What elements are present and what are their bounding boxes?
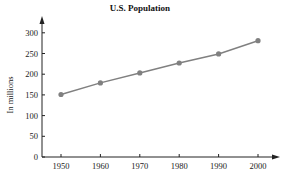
x-axis: 195019601970198019902000 bbox=[42, 154, 280, 171]
x-tick-label: 1980 bbox=[171, 161, 188, 171]
x-tick-label: 1950 bbox=[53, 161, 70, 171]
y-axis: 050100150200250300 bbox=[25, 16, 45, 162]
y-tick-label: 300 bbox=[25, 28, 38, 38]
x-tick-label: 1970 bbox=[131, 161, 148, 171]
data-point bbox=[58, 92, 63, 97]
y-tick-label: 50 bbox=[30, 131, 39, 141]
x-tick-label: 1960 bbox=[92, 161, 109, 171]
x-tick-label: 2000 bbox=[250, 161, 267, 171]
data-point bbox=[98, 80, 103, 85]
data-point bbox=[177, 60, 182, 65]
data-point bbox=[255, 38, 260, 43]
y-tick-label: 150 bbox=[25, 90, 38, 100]
y-tick-label: 200 bbox=[25, 69, 38, 79]
y-tick-label: 100 bbox=[25, 111, 38, 121]
line-chart: U.S. Population 050100150200250300 19501… bbox=[0, 0, 286, 175]
data-point bbox=[137, 70, 142, 75]
data-series bbox=[58, 38, 260, 97]
data-point bbox=[216, 51, 221, 56]
y-tick-label: 250 bbox=[25, 49, 38, 59]
series-line bbox=[61, 41, 258, 95]
x-tick-label: 1990 bbox=[210, 161, 227, 171]
chart-title: U.S. Population bbox=[110, 3, 170, 13]
y-tick-label: 0 bbox=[34, 152, 38, 162]
y-axis-label: In millions bbox=[5, 76, 15, 113]
